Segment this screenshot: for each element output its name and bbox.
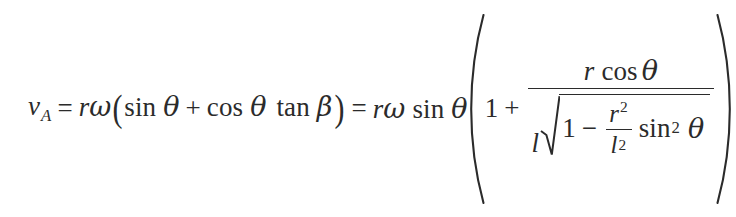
bracket-contents: 1 + rcosθ l	[485, 57, 717, 161]
lhs-variable: v	[28, 91, 40, 121]
equation-formula: vA = rω(sinθ+cosθtanβ) = rωsinθ 1 + rcos…	[28, 0, 733, 217]
rhs-prefix: rωsinθ	[373, 95, 468, 123]
inner-fraction-denominator: l2	[608, 130, 631, 158]
equals-sign-2: =	[345, 95, 372, 122]
middle-plus: +	[180, 95, 207, 122]
paren-close: )	[334, 89, 344, 127]
main-fraction: rcosθ l 1	[528, 57, 715, 161]
rhs-factor-omega: ω	[383, 93, 405, 124]
radicand-sin-function: sin	[639, 115, 671, 142]
middle-tan-function: tan	[277, 93, 310, 123]
paren-open: (	[113, 89, 123, 127]
denominator-leading-l: l	[532, 130, 540, 161]
radicand-one: 1	[562, 115, 576, 142]
middle-cos-argument: θ	[250, 92, 266, 123]
numerator-cos-argument: θ	[642, 55, 658, 86]
inner-denominator-base: l	[611, 133, 618, 158]
square-root: 1 − r2 l2 sin2θ	[540, 94, 710, 161]
numerator-cos-function: cos	[601, 56, 637, 86]
radical-sign-icon	[540, 94, 560, 161]
lhs-variable-group: vA	[28, 93, 51, 125]
middle-tan-argument: β	[317, 92, 333, 123]
numerator-factor-r: r	[584, 56, 595, 86]
lhs-subscript: A	[41, 108, 51, 125]
equation-canvas: vA = rω(sinθ+cosθtanβ) = rωsinθ 1 + rcos…	[0, 0, 736, 217]
middle-cos-function: cos	[207, 93, 243, 123]
inner-numerator-exponent: 2	[620, 99, 628, 114]
middle-expression: rω(sinθ+cosθtanβ)	[79, 89, 346, 127]
middle-factor-r: r	[79, 93, 90, 123]
middle-sin-function: sin	[124, 93, 156, 123]
radicand-minus: −	[576, 115, 603, 142]
inner-numerator-base: r	[609, 100, 619, 127]
middle-sin-argument: θ	[163, 92, 179, 123]
radicand-sin-argument: θ	[688, 115, 704, 142]
middle-factor-omega: ω	[89, 92, 111, 123]
inner-denominator-exponent: 2	[619, 137, 627, 152]
radicand: 1 − r2 l2 sin2θ	[559, 94, 710, 161]
rhs-factor-r: r	[373, 94, 384, 124]
inner-fraction-numerator: r2	[606, 99, 632, 128]
radicand-sin-exponent: 2	[672, 120, 680, 137]
fraction-denominator: l 1 − r2	[528, 89, 715, 161]
big-paren-open	[468, 14, 485, 204]
rhs-sin-function: sin	[412, 94, 444, 124]
inner-fraction: r2 l2	[606, 99, 632, 157]
rhs-one: 1	[485, 95, 499, 122]
rhs-plus: +	[498, 95, 525, 122]
rhs-sin-argument: θ	[451, 93, 467, 124]
big-paren-close	[716, 14, 733, 204]
fraction-numerator: rcosθ	[576, 57, 666, 88]
equals-sign-1: =	[51, 95, 78, 122]
